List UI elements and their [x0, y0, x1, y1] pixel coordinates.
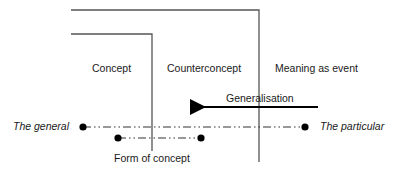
generalisation-label: Generalisation [226, 92, 294, 104]
concept-boundary [71, 34, 152, 151]
form-left-dot [114, 134, 121, 141]
concept-label: Concept [92, 62, 131, 74]
the-general-label: The general [13, 120, 69, 132]
diagram-lines [0, 0, 400, 172]
the-particular-label: The particular [320, 120, 384, 132]
particular-dot [301, 123, 308, 130]
diagram-canvas: Concept Counterconcept Meaning as event … [0, 0, 400, 172]
form-of-concept-label: Form of concept [114, 152, 190, 164]
general-dot [79, 123, 86, 130]
form-right-dot [197, 134, 204, 141]
counterconcept-boundary [71, 10, 259, 162]
counterconcept-label: Counterconcept [167, 62, 241, 74]
meaning-as-event-label: Meaning as event [275, 62, 358, 74]
